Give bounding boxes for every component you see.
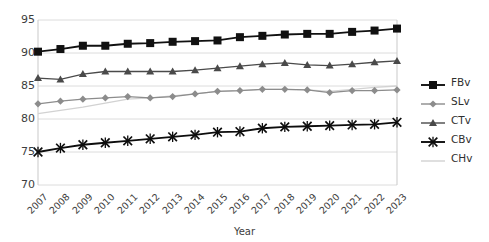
- chart-legend: FBvSLvCTvCBvCHv: [420, 72, 486, 167]
- legend-label: CTv: [451, 114, 471, 126]
- y-tick-label: 75: [5, 146, 35, 157]
- line-chart: 959085807570 200720082009201020112012201…: [0, 0, 489, 242]
- legend-item-slv[interactable]: SLv: [420, 91, 486, 110]
- legend-marker-icon: [420, 76, 446, 88]
- legend-label: FBv: [451, 76, 470, 88]
- x-axis-title: Year: [0, 226, 489, 237]
- y-tick-label: 90: [5, 47, 35, 58]
- legend-item-cbv[interactable]: CBv: [420, 129, 486, 148]
- y-tick-label: 85: [5, 80, 35, 91]
- legend-marker-icon: [420, 133, 446, 145]
- legend-marker-icon: [420, 114, 446, 126]
- y-tick-label: 80: [5, 113, 35, 124]
- legend-marker-icon: [420, 95, 446, 107]
- legend-item-chv[interactable]: CHv: [420, 148, 486, 167]
- legend-label: CHv: [451, 152, 472, 164]
- legend-label: CBv: [451, 133, 472, 145]
- legend-item-fbv[interactable]: FBv: [420, 72, 486, 91]
- legend-marker-icon: [420, 152, 446, 164]
- y-tick-label: 95: [5, 14, 35, 25]
- legend-label: SLv: [451, 95, 470, 107]
- legend-item-ctv[interactable]: CTv: [420, 110, 486, 129]
- y-tick-label: 70: [5, 179, 35, 190]
